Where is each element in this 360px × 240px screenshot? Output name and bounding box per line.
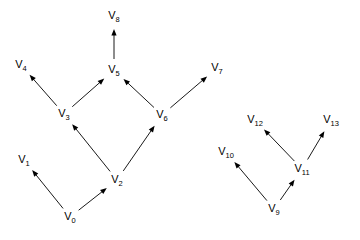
graph-node-v10: V10 [218, 146, 234, 158]
node-label-subscript: 8 [116, 15, 120, 24]
edge-arrowhead [32, 170, 38, 177]
graph-edge-v2-to-v3 [72, 124, 110, 171]
graph-node-v7: V7 [211, 62, 223, 74]
edge-shaft [33, 79, 57, 106]
graph-edge-v0-to-v2 [79, 188, 107, 210]
graph-edge-v9-to-v11 [280, 180, 294, 200]
graph-node-v1: V1 [18, 154, 30, 166]
edge-shaft [170, 80, 203, 108]
node-label-subscript: 13 [331, 119, 339, 128]
edge-arrowhead [289, 180, 295, 187]
graph-edge-v11-to-v12 [264, 129, 294, 161]
graph-node-v5: V5 [108, 64, 120, 76]
edge-shaft [268, 133, 295, 161]
graph-node-v6: V6 [156, 109, 168, 121]
graph-edge-v0-to-v1 [32, 170, 63, 208]
edge-arrowhead [100, 188, 107, 194]
node-label-subscript: 2 [119, 179, 123, 188]
graph-edge-v6-to-v5 [123, 79, 153, 108]
edge-shaft [308, 136, 322, 160]
graph-edge-v2-to-v6 [123, 126, 154, 171]
edge-shaft [127, 83, 154, 108]
graph-node-v11: V11 [294, 163, 309, 175]
edge-shaft [35, 174, 63, 208]
node-label-subscript: 7 [219, 67, 223, 76]
graph-node-v8: V8 [108, 10, 120, 22]
edge-shaft [75, 128, 110, 171]
node-label-subscript: 11 [302, 168, 310, 177]
edge-shaft [280, 184, 291, 200]
graph-edge-v6-to-v7 [170, 76, 207, 107]
graph-edge-v9-to-v10 [234, 162, 267, 201]
graph-edge-v3-to-v4 [30, 75, 57, 106]
node-label-subscript: 10 [226, 151, 234, 160]
graph-node-v9: V9 [268, 203, 280, 215]
graph-node-v3: V3 [58, 108, 70, 120]
graph-node-v2: V2 [111, 174, 123, 186]
edge-shaft [72, 82, 100, 107]
graph-edge-v3-to-v5 [72, 79, 104, 107]
node-label-subscript: 5 [116, 69, 120, 78]
graph-canvas: V0V1V2V3V4V5V6V7V8V9V10V11V12V13 [0, 0, 360, 240]
edge-shaft [238, 166, 267, 201]
graph-edge-v11-to-v13 [308, 131, 325, 159]
node-label-subscript: 0 [72, 216, 76, 225]
node-label-subscript: 1 [26, 159, 30, 168]
node-label-subscript: 12 [255, 119, 263, 128]
graph-node-v4: V4 [15, 59, 27, 71]
node-label-subscript: 6 [164, 114, 168, 123]
node-label-subscript: 9 [276, 208, 280, 217]
graph-edge-v5-to-v8 [111, 29, 116, 59]
graph-node-v12: V12 [247, 114, 263, 126]
graph-node-v13: V13 [323, 114, 339, 126]
graph-edges-layer [0, 0, 360, 240]
edge-shaft [123, 130, 151, 171]
edge-arrowhead [111, 29, 116, 36]
graph-node-v0: V0 [64, 211, 76, 223]
edge-shaft [79, 191, 103, 210]
node-label-subscript: 4 [23, 64, 27, 73]
edge-arrowhead [72, 124, 78, 131]
node-label-subscript: 3 [66, 113, 70, 122]
edge-arrowhead [319, 131, 325, 138]
edge-arrowhead [149, 126, 155, 133]
